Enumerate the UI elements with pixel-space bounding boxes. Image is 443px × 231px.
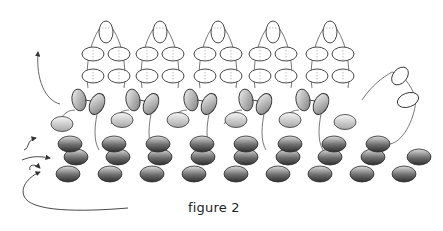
bead-dark xyxy=(56,166,80,182)
base-bead-rows xyxy=(56,136,431,182)
bead-light xyxy=(51,117,73,132)
bead-dark xyxy=(366,136,390,152)
bead-tail xyxy=(388,64,412,88)
bead-dark xyxy=(350,166,374,182)
bead-dark xyxy=(322,136,346,152)
bead-tilted xyxy=(198,91,220,117)
bead-dark xyxy=(182,166,206,182)
bead-dark xyxy=(140,166,164,182)
exit-arrow xyxy=(38,52,60,104)
bead-tilted xyxy=(140,91,162,117)
thread-paths xyxy=(57,22,416,150)
bead-top xyxy=(266,21,280,43)
bead-dark xyxy=(190,136,214,152)
bead-light xyxy=(111,113,133,128)
bead-dark xyxy=(266,166,290,182)
bead-tilted xyxy=(253,91,275,117)
bead-top xyxy=(153,21,167,43)
bead-dark xyxy=(308,166,332,182)
beading-diagram xyxy=(0,0,443,231)
bead-light xyxy=(167,113,189,128)
bead-dark xyxy=(58,136,82,152)
bead-tail xyxy=(395,90,420,111)
fringe-columns xyxy=(82,21,354,83)
bead-dark xyxy=(98,166,122,182)
bead-light xyxy=(334,115,356,130)
bead-dark xyxy=(407,149,431,165)
figure-caption: figure 2 xyxy=(188,200,240,215)
bead-dark xyxy=(234,136,258,152)
bead-tilted xyxy=(86,91,108,117)
bead-dark xyxy=(146,136,170,152)
bead-tilted xyxy=(310,91,332,117)
bead-dark xyxy=(102,136,126,152)
bead-top xyxy=(323,21,337,43)
bead-dark xyxy=(278,136,302,152)
bead-light xyxy=(279,113,301,128)
bead-top xyxy=(211,21,225,43)
bead-top xyxy=(99,21,113,43)
bead-dark xyxy=(224,166,248,182)
bead-light xyxy=(225,113,247,128)
bead-dark xyxy=(392,166,416,182)
